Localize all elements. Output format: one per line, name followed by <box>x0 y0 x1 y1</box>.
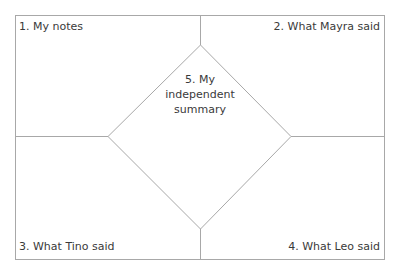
organizer-diagram <box>0 0 396 269</box>
quadrant-label-mayra: 2. What Mayra said <box>274 20 380 33</box>
center-summary-label: 5. My independent summary <box>149 72 251 117</box>
quadrant-label-my-notes: 1. My notes <box>19 20 83 33</box>
quadrant-label-leo: 4. What Leo said <box>288 240 380 253</box>
quadrant-label-tino: 3. What Tino said <box>19 240 115 253</box>
center-label-line: 5. My <box>149 72 251 87</box>
center-label-line: summary <box>149 102 251 117</box>
center-label-line: independent <box>149 87 251 102</box>
